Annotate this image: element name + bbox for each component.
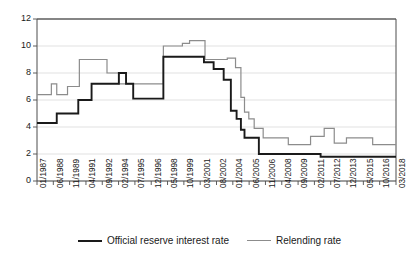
data-series-group <box>37 41 396 157</box>
chart-canvas <box>0 0 419 200</box>
legend-entry[interactable]: Relending rate <box>247 235 341 246</box>
legend-line-swatch-official <box>78 240 102 242</box>
legend-entry[interactable]: Official reserve interest rate <box>78 235 229 246</box>
legend-line-swatch-relend <box>247 240 271 241</box>
legend-label: Official reserve interest rate <box>107 235 229 246</box>
y-axis-ticks <box>33 19 37 181</box>
plot-area: 024681012 <box>0 0 419 200</box>
y-axis-tick-label: 12 <box>9 14 31 23</box>
y-axis-tick-label: 8 <box>9 68 31 77</box>
y-axis-tick-label: 10 <box>9 41 31 50</box>
chart-legend: Official reserve interest rateRelending … <box>0 235 419 246</box>
y-axis-tick-label: 0 <box>9 176 31 185</box>
x-axis-ticks <box>37 181 396 185</box>
y-axis-tick-label: 6 <box>9 95 31 104</box>
legend-label: Relending rate <box>276 235 341 246</box>
chart-figure: 024681012 01/198706/198811/198904/199109… <box>0 0 419 262</box>
y-axis-tick-label: 4 <box>9 122 31 131</box>
y-axis-tick-label: 2 <box>9 149 31 158</box>
